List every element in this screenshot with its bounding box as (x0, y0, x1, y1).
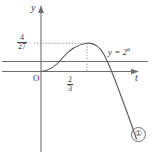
peak-x-value-label: 2 3 (67, 76, 73, 94)
x-axis (2, 69, 139, 75)
peak-y-denominator: 27 (17, 43, 27, 51)
peak-guide-lines (34, 43, 87, 71)
reference-line-label-exponent: a (127, 46, 130, 52)
graph-canvas (0, 0, 152, 157)
peak-y-value-label: 4 27 (17, 34, 27, 52)
reference-line-label: y = 2a (108, 46, 130, 57)
reference-line-label-base: y = 2 (108, 47, 127, 57)
math-graph-figure: y t O y = 2a 4 27 2 3 ① (0, 0, 152, 157)
y-axis-label: y (31, 3, 35, 13)
curve-1 (41, 43, 137, 139)
origin-label: O (33, 74, 40, 83)
peak-x-denominator: 3 (67, 85, 73, 93)
x-axis-label: t (135, 73, 138, 83)
curve-tag-label: ① (131, 127, 146, 142)
